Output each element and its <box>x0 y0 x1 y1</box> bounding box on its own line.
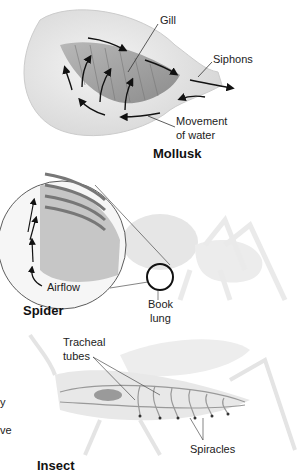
airflow-label: Airflow <box>47 281 80 294</box>
tracheal-tubes-label-2: tubes <box>63 350 90 363</box>
siphons-label: Siphons <box>213 53 253 66</box>
mollusk-title: Mollusk <box>153 146 201 161</box>
book-lung-label-2: lung <box>150 312 171 325</box>
spider-title: Spider <box>23 303 63 318</box>
insect-title: Insect <box>37 458 75 472</box>
book-lung-label-1: Book <box>148 298 173 311</box>
respiratory-diagram <box>0 0 301 472</box>
spider-illustration <box>0 174 285 309</box>
movement-label-2: of water <box>176 129 215 142</box>
spiracles-label: Spiracles <box>190 443 235 456</box>
edge-fragment-1: y <box>0 396 6 409</box>
gill-label: Gill <box>160 14 176 27</box>
edge-fragment-2: ve <box>0 424 12 437</box>
movement-label-1: Movement <box>176 115 227 128</box>
tracheal-tubes-label-1: Tracheal <box>63 336 105 349</box>
